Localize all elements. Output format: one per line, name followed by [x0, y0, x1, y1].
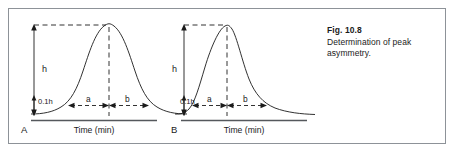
panel-b-panel-label: B — [171, 124, 177, 135]
panel-a-a-label: a — [86, 94, 91, 104]
panel-b-tenth-h-label: 0.1h — [180, 97, 195, 106]
figure-caption-label: Fig. 10.8 — [327, 25, 445, 37]
figure-root: h 0.1h a b A Time (min) — [0, 0, 457, 156]
panel-b-x-axis-label: Time (min) — [224, 125, 265, 135]
figure-caption: Fig. 10.8 Determination of peak asymmetr… — [327, 25, 445, 60]
figure-caption-text: Determination of peak asymmetry. — [327, 37, 445, 60]
panel-a-h-label: h — [42, 64, 47, 74]
panel-b-a-label: a — [207, 94, 212, 104]
panel-b: h 0.1h a b B Time (min) — [171, 24, 315, 135]
panel-a-x-axis-label: Time (min) — [74, 125, 115, 135]
panel-a: h 0.1h a b A Time (min) — [21, 24, 187, 135]
panel-b-h-label: h — [172, 64, 177, 74]
panel-a-tenth-h-arrow — [32, 95, 37, 116]
panel-a-panel-label: A — [21, 124, 28, 135]
figure-frame: h 0.1h a b A Time (min) — [8, 8, 446, 144]
panel-b-b-label: b — [243, 94, 248, 104]
panel-a-tenth-h-label: 0.1h — [38, 97, 53, 106]
panel-a-b-label: b — [125, 94, 130, 104]
